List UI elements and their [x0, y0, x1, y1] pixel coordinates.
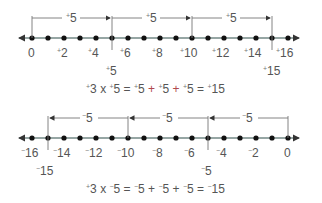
bottom-marker-labels: −5 −15 — [36, 164, 212, 178]
point-dot — [189, 135, 194, 140]
bottom-number-line: −5 −5 −5 −16 −14 −12 −10 −8 −6 −4 −2 0 −… — [19, 111, 299, 196]
svg-text:−8: −8 — [152, 146, 163, 160]
point-dot — [93, 35, 98, 40]
svg-text:−5: −5 — [201, 164, 212, 178]
svg-text:+12: +12 — [212, 46, 230, 60]
point-dot — [157, 135, 162, 140]
point-dot — [61, 135, 66, 140]
svg-text:+5: +5 — [146, 11, 157, 25]
bottom-equation: +3 x −5 = −5 + −5 + −5 = −15 — [86, 182, 225, 196]
point-dot — [93, 135, 98, 140]
svg-text:−16: −16 — [21, 146, 39, 160]
point-dot — [237, 135, 242, 140]
point-dot — [125, 35, 130, 40]
svg-text:+10: +10 — [180, 46, 198, 60]
svg-text:+15: +15 — [263, 64, 281, 78]
point-dot — [253, 135, 258, 140]
point-dot — [205, 35, 210, 40]
top-number-line: +5 +5 +5 0 +2 +4 +6 +8 +10 +12 +14 +16 +… — [19, 11, 299, 96]
svg-text:+2: +2 — [57, 46, 68, 60]
point-dot — [61, 35, 66, 40]
svg-text:+5: +5 — [106, 64, 117, 78]
svg-text:−10: −10 — [117, 146, 135, 160]
svg-text:−5: −5 — [162, 111, 173, 125]
point-dot — [269, 135, 274, 140]
point-dot — [221, 35, 226, 40]
point-dot — [173, 35, 178, 40]
svg-text:+5: +5 — [226, 11, 237, 25]
point-dot — [141, 135, 146, 140]
point-dot — [29, 135, 34, 140]
point-dot — [77, 135, 82, 140]
point-dot — [253, 35, 258, 40]
svg-text:+5: +5 — [66, 11, 77, 25]
svg-text:+4: +4 — [88, 46, 99, 60]
svg-text:+14: +14 — [244, 46, 262, 60]
point-dot — [109, 135, 114, 140]
svg-text:+16: +16 — [276, 46, 294, 60]
point-dot — [285, 35, 290, 40]
svg-text:−14: −14 — [53, 146, 71, 160]
svg-text:0: 0 — [28, 46, 35, 60]
point-dot — [77, 35, 82, 40]
point-dot — [45, 35, 50, 40]
svg-text:−5: −5 — [242, 111, 253, 125]
svg-text:+6: +6 — [120, 46, 131, 60]
svg-text:0: 0 — [284, 146, 291, 160]
point-dot — [173, 135, 178, 140]
svg-text:−5: −5 — [82, 111, 93, 125]
point-dot — [221, 135, 226, 140]
point-dot — [141, 35, 146, 40]
top-tick-labels: 0 +2 +4 +6 +8 +10 +12 +14 +16 — [28, 46, 294, 60]
svg-text:+8: +8 — [152, 46, 163, 60]
svg-text:−12: −12 — [85, 146, 103, 160]
svg-text:−4: −4 — [216, 146, 227, 160]
top-marker-labels: +5 +15 — [106, 64, 281, 78]
svg-text:−15: −15 — [36, 164, 54, 178]
svg-text:−2: −2 — [248, 146, 259, 160]
number-line-diagram: +5 +5 +5 0 +2 +4 +6 +8 +10 +12 +14 +16 +… — [0, 0, 322, 203]
point-dot — [157, 35, 162, 40]
bottom-tick-labels: −16 −14 −12 −10 −8 −6 −4 −2 0 — [21, 146, 291, 160]
point-dot — [237, 35, 242, 40]
top-equation: +3 x +5 = +5 + +5 + +5 = +15 — [86, 82, 225, 96]
svg-text:−6: −6 — [184, 146, 195, 160]
